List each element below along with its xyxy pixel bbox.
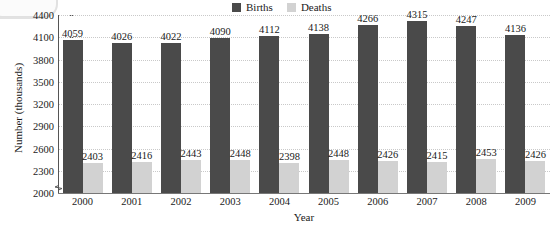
bar-deaths-2000[interactable]: 2403 [83,163,103,193]
y-axis-line [58,15,59,193]
bar-group-2004: 41122398 [255,15,304,193]
bar-deaths-2008[interactable]: 2453 [476,159,496,193]
x-axis-title: Year [58,211,550,223]
bar-births-2000[interactable]: 4059 [63,40,83,193]
bar-value-label: 2453 [476,147,497,158]
y-tick-label: 4400 [33,10,54,21]
bar-value-label: 4022 [161,31,182,42]
bar-deaths-2001[interactable]: 2416 [132,162,152,193]
bar-value-label: 4090 [210,26,231,37]
bar-births-2006[interactable]: 4266 [358,25,378,193]
x-tick-label-2003: 2003 [206,196,255,212]
bar-value-label: 2448 [328,148,349,159]
x-tick-label-2002: 2002 [156,196,205,212]
bar-deaths-2006[interactable]: 2426 [378,161,398,193]
bar-value-label: 4315 [407,9,428,20]
y-tick-label: 2600 [33,143,54,154]
bar-value-label: 4136 [505,23,526,34]
bar-value-label: 2403 [82,151,103,162]
bar-births-2001[interactable]: 4026 [112,43,132,193]
bar-value-label: 2426 [525,149,546,160]
bar-births-2005[interactable]: 4138 [309,34,329,193]
axis-break-icon [54,182,63,193]
bar-deaths-2003[interactable]: 2448 [230,160,250,193]
plot-area: 4059240340262416402224434090244841122398… [58,15,550,193]
y-tick-label: 2900 [33,121,54,132]
bar-groups: 4059240340262416402224434090244841122398… [58,15,550,193]
legend-label: Deaths [301,1,332,13]
x-tick-label-2009: 2009 [501,196,550,212]
x-tick-label-2004: 2004 [255,196,304,212]
bar-group-2000: 40592403 [58,15,107,193]
bar-group-2006: 42662426 [353,15,402,193]
bar-births-2003[interactable]: 4090 [210,38,230,193]
chart-legend: BirthsDeaths [232,1,331,13]
x-tick-label-2000: 2000 [58,196,107,212]
y-tick-label: 3500 [33,76,54,87]
y-axis-tick-labels: 200023002600290032003500380041004400 [16,15,54,193]
bar-value-label: 4112 [259,24,280,35]
bar-group-2009: 41362426 [501,15,550,193]
bar-value-label: 2416 [131,150,152,161]
bar-value-label: 4026 [111,31,132,42]
bar-births-2004[interactable]: 4112 [259,36,279,193]
bar-births-2007[interactable]: 4315 [407,21,427,193]
x-axis-line [58,193,550,194]
bar-value-label: 2398 [279,151,300,162]
y-tick-label: 2000 [33,188,54,199]
bar-value-label: 2443 [181,148,202,159]
bar-value-label: 2448 [230,148,251,159]
bar-value-label: 4138 [308,22,329,33]
bar-value-label: 4266 [357,13,378,24]
bar-group-2008: 42472453 [452,15,501,193]
bar-deaths-2007[interactable]: 2415 [427,162,447,193]
x-tick-label-2006: 2006 [353,196,402,212]
bar-births-2008[interactable]: 4247 [456,26,476,193]
legend-label: Births [246,1,273,13]
bar-value-label: 2426 [377,149,398,160]
births-deaths-bar-chart: BirthsDeaths Number (thousands) 20002300… [0,0,552,240]
bar-group-2005: 41382448 [304,15,353,193]
bar-deaths-2005[interactable]: 2448 [329,160,349,193]
legend-entry-births[interactable]: Births [232,1,273,13]
x-axis-tick-labels: 2000200120022003200420052006200720082009 [58,196,550,212]
bar-group-2002: 40222443 [156,15,205,193]
y-tick-label: 4100 [33,32,54,43]
deaths-swatch [287,3,296,12]
x-tick-label-2001: 2001 [107,196,156,212]
x-tick-label-2008: 2008 [452,196,501,212]
y-tick-label: 3800 [33,54,54,65]
bar-deaths-2002[interactable]: 2443 [181,160,201,193]
bar-births-2002[interactable]: 4022 [161,43,181,193]
bar-value-label: 4247 [456,14,477,25]
bar-value-label: 4059 [62,28,83,39]
bar-deaths-2009[interactable]: 2426 [525,161,545,193]
x-tick-label-2007: 2007 [402,196,451,212]
bar-group-2003: 40902448 [206,15,255,193]
y-tick-label: 3200 [33,99,54,110]
x-tick-label-2005: 2005 [304,196,353,212]
bar-group-2001: 40262416 [107,15,156,193]
bar-group-2007: 43152415 [402,15,451,193]
y-tick-label: 2300 [33,165,54,176]
bar-deaths-2004[interactable]: 2398 [279,163,299,193]
legend-entry-deaths[interactable]: Deaths [287,1,332,13]
bar-births-2009[interactable]: 4136 [505,35,525,193]
births-swatch [232,3,241,12]
bar-value-label: 2415 [427,150,448,161]
